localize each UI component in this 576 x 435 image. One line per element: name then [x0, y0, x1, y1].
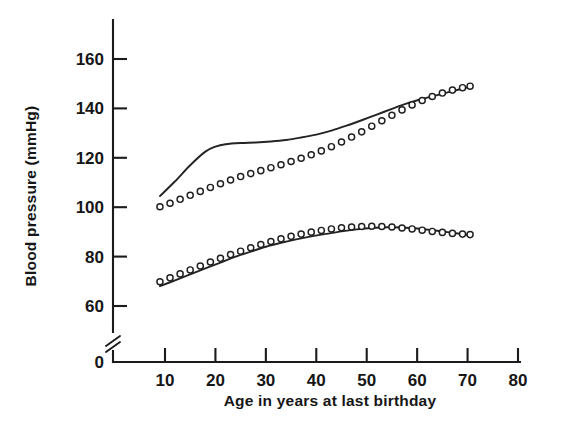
data-point: [359, 129, 365, 135]
line-diastolic-line: [160, 227, 468, 286]
data-point: [338, 139, 344, 145]
data-point: [268, 165, 274, 171]
y-tick-label-60: 60: [85, 297, 104, 316]
y-tick-label-100: 100: [76, 198, 104, 217]
data-point: [157, 279, 163, 285]
series-diastolic-line: [160, 227, 468, 286]
data-point: [288, 233, 294, 239]
data-point: [177, 196, 183, 202]
data-point: [369, 223, 375, 229]
series-systolic-circles: [157, 83, 473, 210]
data-point: [459, 231, 465, 237]
data-point: [228, 177, 234, 183]
y-tick-label-140: 140: [76, 99, 104, 118]
data-point: [449, 230, 455, 236]
plot-area: [157, 83, 473, 286]
data-point: [238, 248, 244, 254]
data-point: [298, 155, 304, 161]
series-diastolic-circles: [157, 223, 473, 285]
data-point: [439, 229, 445, 235]
data-point: [429, 228, 435, 234]
y-axis: 6080100120140160 0: [76, 20, 127, 372]
data-point: [278, 236, 284, 242]
data-point: [217, 181, 223, 187]
data-point: [308, 152, 314, 158]
data-point: [409, 226, 415, 232]
data-point: [268, 238, 274, 244]
data-point: [429, 93, 435, 99]
data-point: [298, 231, 304, 237]
y-tick-marks: [113, 59, 127, 306]
data-point: [167, 200, 173, 206]
y-tick-label-80: 80: [85, 248, 104, 267]
data-point: [197, 188, 203, 194]
data-point: [207, 184, 213, 190]
x-tick-label-60: 60: [408, 371, 427, 390]
data-point: [389, 112, 395, 118]
data-point: [238, 174, 244, 180]
data-point: [248, 245, 254, 251]
data-point: [349, 134, 355, 140]
y-axis-title: Blood pressure (mmHg): [22, 106, 39, 287]
data-point: [399, 107, 405, 113]
x-axis: 1020304050607080: [113, 348, 527, 390]
data-point: [467, 83, 473, 89]
x-tick-marks: [165, 348, 518, 362]
data-point: [328, 144, 334, 150]
data-point: [399, 225, 405, 231]
x-tick-label-70: 70: [458, 371, 477, 390]
data-point: [288, 158, 294, 164]
data-point: [167, 275, 173, 281]
y-tick-label-160: 160: [76, 50, 104, 69]
y-axis-break-icon: [106, 336, 120, 352]
x-tick-label-30: 30: [256, 371, 275, 390]
data-point: [177, 271, 183, 277]
data-point: [157, 204, 163, 210]
x-tick-label-50: 50: [357, 371, 376, 390]
data-point: [419, 97, 425, 103]
data-point: [187, 267, 193, 273]
data-point: [207, 259, 213, 265]
data-point: [467, 232, 473, 238]
data-point: [409, 102, 415, 108]
data-point: [328, 226, 334, 232]
data-point: [439, 90, 445, 96]
data-point: [308, 229, 314, 235]
y-axis-zero-label: 0: [95, 353, 104, 372]
data-point: [318, 227, 324, 233]
data-point: [318, 148, 324, 154]
x-tick-label-20: 20: [206, 371, 225, 390]
data-point: [338, 225, 344, 231]
data-point: [359, 223, 365, 229]
blood-pressure-chart-figure: 6080100120140160 0 1020304050607080 Age …: [0, 0, 576, 435]
data-point: [278, 162, 284, 168]
data-point: [187, 192, 193, 198]
x-tick-labels: 1020304050607080: [156, 371, 528, 390]
chart-canvas: 6080100120140160 0 1020304050607080 Age …: [0, 0, 576, 435]
x-axis-title: Age in years at last birthday: [224, 392, 437, 409]
data-point: [248, 171, 254, 177]
data-point: [197, 263, 203, 269]
data-point: [389, 224, 395, 230]
data-point: [419, 227, 425, 233]
y-tick-labels: 6080100120140160: [76, 50, 104, 316]
data-point: [258, 241, 264, 247]
x-tick-label-80: 80: [509, 371, 528, 390]
x-tick-label-10: 10: [156, 371, 175, 390]
data-point: [379, 118, 385, 124]
data-point: [379, 223, 385, 229]
data-point: [217, 255, 223, 261]
data-point: [449, 87, 455, 93]
data-point: [349, 224, 355, 230]
x-tick-label-40: 40: [307, 371, 326, 390]
y-tick-label-120: 120: [76, 149, 104, 168]
data-point: [459, 85, 465, 91]
data-point: [258, 168, 264, 174]
data-point: [228, 252, 234, 258]
data-point: [369, 123, 375, 129]
